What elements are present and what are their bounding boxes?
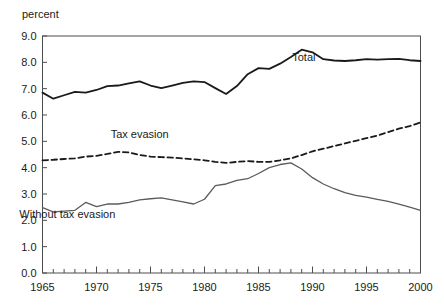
annotation-without-tax-evasion: Without tax evasion — [19, 208, 115, 220]
annotation-total: Total — [292, 51, 315, 63]
y-tick-label: 1.0 — [21, 241, 36, 253]
x-tick-label: 1990 — [300, 281, 324, 293]
x-axis-labels: 19651970197519801985199019952000 — [30, 281, 432, 293]
x-tick-label: 1995 — [354, 281, 378, 293]
x-tick-label: 1965 — [30, 281, 54, 293]
x-tick-label: 1970 — [84, 281, 108, 293]
annotation-tax-evasion: Tax evasion — [111, 128, 169, 140]
y-tick-label: 3.0 — [21, 188, 36, 200]
y-tick-label: 9.0 — [21, 30, 36, 42]
chart-container: 0.01.02.03.04.05.06.07.08.09.0 196519701… — [0, 0, 444, 308]
y-tick-label: 7.0 — [21, 83, 36, 95]
y-axis-unit-label: percent — [22, 8, 59, 20]
y-axis-labels: 0.01.02.03.04.05.06.07.08.09.0 — [21, 30, 36, 279]
y-tick-label: 5.0 — [21, 135, 36, 147]
x-tick-label: 1980 — [192, 281, 216, 293]
y-tick-label: 6.0 — [21, 109, 36, 121]
x-tick-label: 2000 — [408, 281, 432, 293]
y-tick-label: 0.0 — [21, 267, 36, 279]
line-chart: 0.01.02.03.04.05.06.07.08.09.0 196519701… — [0, 0, 444, 308]
y-tick-label: 4.0 — [21, 162, 36, 174]
x-tick-label: 1985 — [246, 281, 270, 293]
y-tick-label: 8.0 — [21, 56, 36, 68]
x-tick-label: 1975 — [138, 281, 162, 293]
